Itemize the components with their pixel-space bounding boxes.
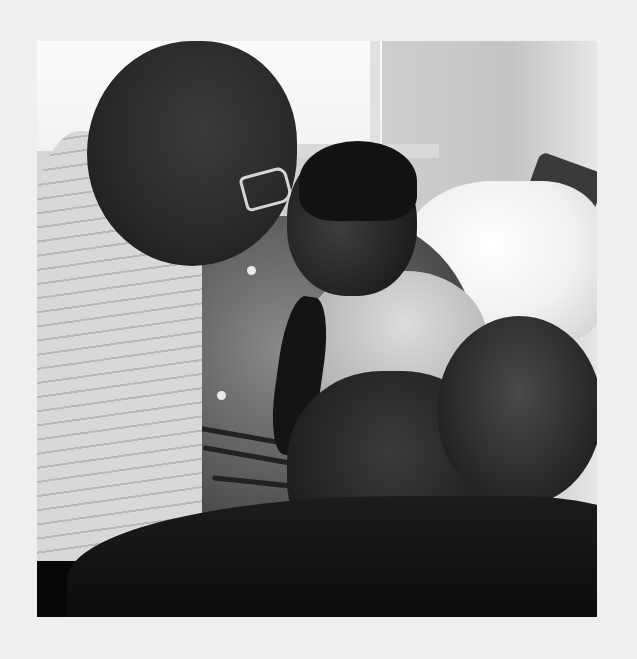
- teddy-bear-head: [437, 316, 597, 506]
- child-hair: [299, 141, 417, 221]
- comforter-dot: [217, 391, 226, 400]
- photograph: [37, 41, 597, 617]
- comforter-dot: [247, 266, 256, 275]
- man-head: [87, 41, 297, 266]
- window-frame: [370, 41, 380, 151]
